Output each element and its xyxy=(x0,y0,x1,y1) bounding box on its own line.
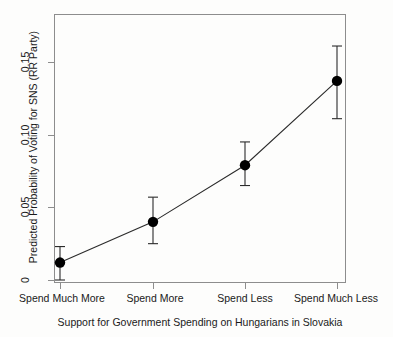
chart-figure: 0.15 0.10 0.05 0 Spend Much More Spend M… xyxy=(0,0,393,337)
x-tick-mark-2 xyxy=(245,283,246,289)
x-tick-label-3: Spend Much Less xyxy=(294,292,378,304)
x-tick-label-1: Spend More xyxy=(126,292,183,304)
x-axis-title: Support for Government Spending on Hunga… xyxy=(30,316,370,328)
x-tick-mark-0 xyxy=(60,283,61,289)
y-tick-mark-0.15 xyxy=(48,62,54,63)
x-tick-mark-3 xyxy=(337,283,338,289)
x-tick-label-2: Spend Less xyxy=(217,292,272,304)
y-axis-title: Predicted Probability of Voting for SNS … xyxy=(27,12,39,282)
y-tick-mark-0.05 xyxy=(48,207,54,208)
y-tick-mark-0.10 xyxy=(48,135,54,136)
y-tick-mark-0 xyxy=(48,280,54,281)
plot-area-frame xyxy=(54,14,346,283)
x-tick-label-0: Spend Much More xyxy=(19,292,105,304)
x-tick-mark-1 xyxy=(153,283,154,289)
